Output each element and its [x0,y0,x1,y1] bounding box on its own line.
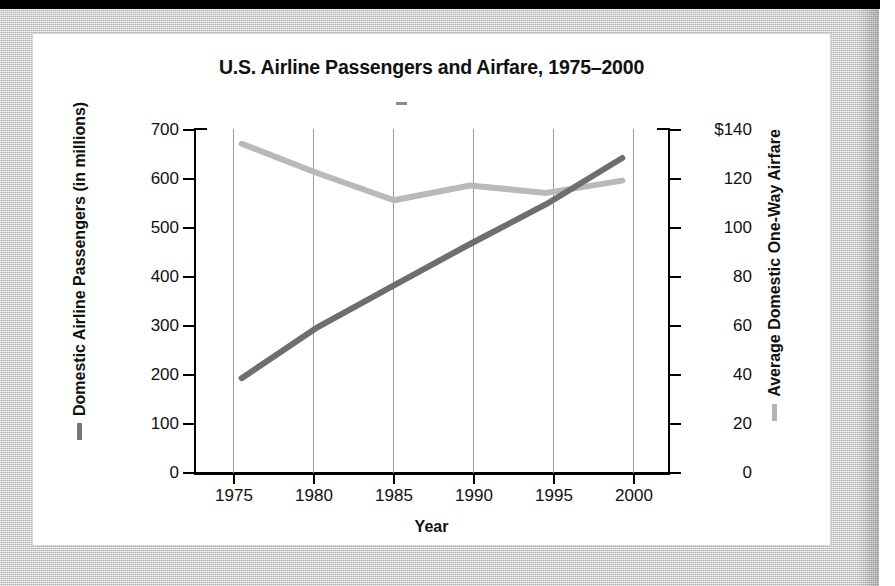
y-left-label-300: 300 [119,316,179,336]
left-axis-title-text: Domestic Airline Passengers (in millions… [71,102,88,416]
right-axis-title-text: Average Domestic One-Way Airfare [766,129,783,397]
y-right-label-20: 20 [686,414,752,434]
tick-left-400 [183,276,195,278]
y-left-label-600: 600 [119,169,179,189]
tick-right-0 [669,472,681,474]
tick-right-80 [669,276,681,278]
x-label-2000: 2000 [594,486,674,506]
y-left-label-700: 700 [119,120,179,140]
tick-x-1985 [393,473,395,484]
x-label-1990: 1990 [434,486,514,506]
mat-right-shadow [858,9,879,586]
passengers-legend-dash-icon [77,423,82,440]
x-label-1995: 1995 [514,486,594,506]
tick-left-700 [183,129,195,131]
y-left-label-400: 400 [119,267,179,287]
tick-left-500 [183,227,195,229]
tick-right-120 [669,178,681,180]
y-right-label-80: 80 [686,267,752,287]
tick-right-100 [669,227,681,229]
tick-right-60 [669,325,681,327]
left-axis-title: Domestic Airline Passengers (in millions… [71,110,89,440]
series-layer [196,129,668,473]
tick-x-2000 [633,473,635,484]
tick-left-300 [183,325,195,327]
y-left-label-200: 200 [119,365,179,385]
tick-left-100 [183,423,195,425]
x-label-1975: 1975 [194,486,274,506]
y-left-label-100: 100 [119,414,179,434]
page-right-white-margin [879,9,895,586]
tick-left-200 [183,374,195,376]
tick-x-1980 [313,473,315,484]
tick-right-40 [669,374,681,376]
tick-left-0 [183,472,195,474]
y-right-label-140: $140 [686,120,752,140]
y-right-label-60: 60 [686,316,752,336]
x-label-1980: 1980 [274,486,354,506]
top-bar-right-gap [880,0,895,9]
chart-card: U.S. Airline Passengers and Airfare, 197… [33,34,830,545]
tick-x-1990 [473,473,475,484]
y-right-label-40: 40 [686,365,752,385]
tick-left-600 [183,178,195,180]
right-axis-title: Average Domestic One-Way Airfare [766,110,784,440]
y-right-label-100: 100 [686,218,752,238]
y-right-label-0: 0 [686,463,752,483]
top-black-bar [0,0,880,9]
tick-right-140 [669,129,681,131]
x-axis-title: Year [33,518,830,536]
left-axis-tick-labels: 700 600 500 400 300 200 100 0 [117,34,179,545]
tick-x-1995 [553,473,555,484]
tick-right-20 [669,423,681,425]
tick-x-1975 [233,473,235,484]
y-left-label-500: 500 [119,218,179,238]
x-label-1985: 1985 [354,486,434,506]
right-axis-tick-labels: $140 120 100 80 60 40 20 0 [686,34,752,545]
y-right-label-120: 120 [686,169,752,189]
airfare-legend-dash-icon [772,404,777,421]
stray-tick-mark-icon [396,102,407,105]
y-left-label-0: 0 [119,463,179,483]
page-root: U.S. Airline Passengers and Airfare, 197… [0,0,895,586]
plot-area [196,129,668,473]
